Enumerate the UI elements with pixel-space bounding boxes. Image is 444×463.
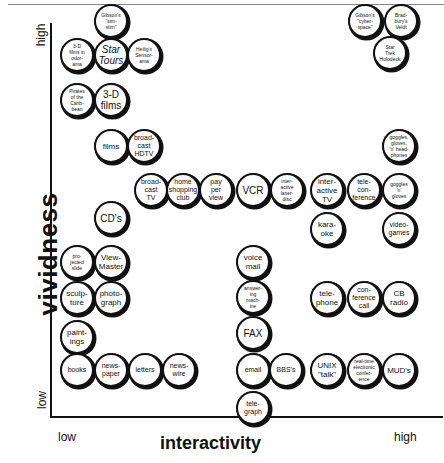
media-node: UNIX "talk" [310, 353, 344, 387]
media-node: Gibson's "cyber- space" [348, 4, 382, 38]
media-node-label: pro- jected slide [70, 253, 83, 271]
top-rule [8, 4, 444, 5]
media-node-label: news- wire [170, 362, 189, 378]
media-node: inter- active TV [310, 173, 344, 207]
media-node: voice mail [236, 245, 270, 279]
media-node: news- paper [94, 353, 128, 387]
media-node: Pirates of the Carib- bean [60, 83, 94, 117]
media-node: real-time electronic confer- ence [347, 353, 381, 387]
media-node: con- ference call [347, 281, 381, 315]
media-node: BBS's [269, 353, 303, 387]
media-node-label: home shopping club [169, 178, 197, 202]
media-node-label: Pirates of the Carib- bean [69, 88, 85, 112]
media-node-label: Star Trek Holodeck [380, 44, 401, 62]
media-node: answer- ing mach- ine [236, 280, 270, 314]
media-node: photo- graph [94, 281, 128, 315]
media-node-label: inter- active TV [317, 177, 338, 204]
media-node-label: answer- ing mach- ine [244, 285, 262, 309]
media-node-label: email [245, 366, 262, 374]
x-axis-high-label: high [394, 430, 417, 444]
media-node: CD's [94, 201, 128, 235]
media-node: MUD's [382, 353, 416, 387]
media-node: View- Master [94, 245, 128, 279]
media-node-label: inter- active laser- disc [280, 178, 293, 202]
media-node: Brad- bury's Veldt [384, 4, 418, 38]
media-node-label: MUD's [387, 366, 411, 375]
media-node: email [236, 353, 270, 387]
media-node: letters [128, 353, 162, 387]
media-node-label: BBS's [277, 366, 296, 374]
x-axis-title: interactivity [160, 433, 261, 454]
media-node-label: goggles 'n' gloves [390, 181, 408, 199]
y-axis-title: vividness [33, 196, 64, 316]
media-node: tele- phone [310, 281, 344, 315]
media-node-label: VCR [242, 185, 263, 196]
media-node-label: books [68, 366, 87, 374]
media-node: pro- jected slide [60, 245, 94, 279]
media-node: 3-D films [94, 83, 128, 117]
media-node: films [94, 129, 128, 163]
media-node: broad- cast HDTV [127, 129, 161, 163]
media-node-label: FAX [244, 328, 263, 339]
media-node: tele- graph [236, 391, 270, 425]
media-node: kara- oke [310, 212, 344, 246]
media-node-label: tele- graph [244, 400, 262, 416]
media-node-label: photo- graph [100, 289, 123, 307]
media-node-label: voice mail [244, 253, 263, 271]
media-node: Star Trek Holodeck [373, 36, 407, 70]
media-node-label: CB radio [390, 289, 408, 307]
media-node: Heilig's Sensor- ama [127, 38, 161, 72]
media-node-label: Brad- bury's Veldt [394, 12, 407, 30]
media-node-label: 3-D films [101, 89, 122, 111]
media-node: paint- ings [60, 320, 94, 354]
media-node: goggles 'n' gloves [382, 173, 416, 207]
y-axis-high-label: high [34, 24, 48, 47]
media-node-label: CD's [100, 213, 121, 224]
media-node-label: sculp- ture [66, 289, 87, 307]
media-node: pay per view [199, 173, 233, 207]
media-node-label: broad- cast TV [141, 178, 161, 202]
media-node: books [60, 353, 94, 387]
media-node-label: goggles, gloves, 'n' head- phones [390, 134, 409, 158]
media-node: news- wire [162, 353, 196, 387]
media-node-label: View- Master [99, 253, 123, 271]
media-node: tele- con- ference [347, 173, 381, 207]
media-node-label: tele- con- ference [352, 178, 375, 202]
media-node: 3-D films in odor- ama [60, 38, 94, 72]
y-axis-low-label: low [35, 391, 49, 409]
media-node-label: tele- phone [316, 289, 338, 307]
media-node-label: letters [135, 366, 154, 374]
media-node: FAX [236, 316, 270, 350]
media-node-label: broad- cast HDTV [134, 134, 154, 158]
media-node: home shopping club [166, 173, 200, 207]
media-node-label: UNIX "talk" [317, 361, 336, 379]
media-node: CB radio [382, 281, 416, 315]
media-node-label: video- games [388, 221, 409, 237]
media-node: sculp- ture [60, 281, 94, 315]
media-node-label: 3-D films in odor- ama [69, 43, 85, 67]
media-node: Gibson's "sim- stim" [94, 4, 128, 38]
media-node: video- games [382, 212, 416, 246]
media-node: inter- active laser- disc [270, 173, 304, 207]
media-node: broad- cast TV [134, 173, 168, 207]
media-node-label: films [103, 142, 119, 151]
x-axis-low-label: low [58, 430, 76, 444]
media-node-label: paint- ings [67, 328, 87, 346]
media-node-label: kara- oke [318, 220, 336, 238]
media-node: Star Tours [94, 38, 128, 72]
media-node: VCR [236, 173, 270, 207]
media-node-label: real-time electronic confer- ence [353, 358, 374, 382]
media-node-label: pay per view [209, 178, 223, 202]
media-node-label: Star Tours [99, 44, 124, 66]
media-node-label: news- paper [102, 362, 121, 378]
media-node-label: Heilig's Sensor- ama [135, 46, 153, 64]
media-node-label: Gibson's "sim- stim" [101, 12, 120, 30]
media-node-label: con- ference call [352, 286, 375, 310]
media-node: goggles, gloves, 'n' head- phones [382, 129, 416, 163]
media-node-label: Gibson's "cyber- space" [355, 12, 374, 30]
